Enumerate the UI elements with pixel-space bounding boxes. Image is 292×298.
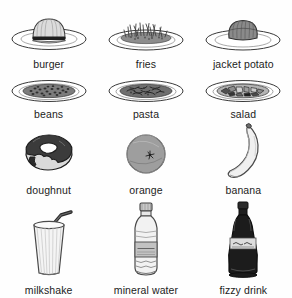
banana-icon: [197, 120, 289, 182]
doughnut-icon: [3, 124, 95, 182]
mineral-water-artwork: [97, 198, 194, 282]
fries-on-plate-icon: [100, 6, 192, 56]
pasta-artwork: [97, 72, 194, 106]
vocabulary-cell-beans[interactable]: beans: [0, 72, 97, 122]
cola-bottle-icon: [197, 198, 289, 282]
vocabulary-cell-pasta[interactable]: pasta: [97, 72, 194, 122]
item-label: pasta: [133, 106, 159, 121]
doughnut-artwork: [0, 122, 97, 182]
item-label: milkshake: [25, 282, 73, 297]
vocabulary-cell-orange[interactable]: orange: [97, 122, 194, 198]
fries-artwork: [97, 0, 194, 56]
fizzy-drink-artwork: [195, 198, 292, 282]
item-label: fizzy drink: [219, 282, 267, 297]
water-bottle-icon: [100, 198, 192, 282]
item-label: beans: [34, 106, 63, 121]
item-label: doughnut: [26, 182, 71, 197]
banana-artwork: [195, 122, 292, 182]
vocabulary-cell-doughnut[interactable]: doughnut: [0, 122, 97, 198]
burger-on-plate-icon: [3, 6, 95, 56]
vocabulary-cell-milkshake[interactable]: milkshake: [0, 198, 97, 298]
pasta-on-plate-icon: [100, 76, 192, 106]
milkshake-glass-icon: [3, 202, 95, 282]
vocabulary-cell-fries[interactable]: fries: [97, 0, 194, 72]
item-label: banana: [226, 182, 262, 197]
salad-on-plate-icon: [197, 76, 289, 106]
orange-fruit-icon: [100, 124, 192, 182]
milkshake-artwork: [0, 198, 97, 282]
item-label: jacket potato: [213, 56, 274, 71]
vocabulary-cell-burger[interactable]: burger: [0, 0, 97, 72]
vocabulary-cell-mineral-water[interactable]: mineral water: [97, 198, 194, 298]
salad-artwork: [195, 72, 292, 106]
vocabulary-cell-fizzy-drink[interactable]: fizzy drink: [195, 198, 292, 298]
beans-on-plate-icon: [3, 76, 95, 106]
jacket-potato-artwork: [195, 0, 292, 56]
beans-artwork: [0, 72, 97, 106]
vocabulary-cell-jacket-potato[interactable]: jacket potato: [195, 0, 292, 72]
vocabulary-cell-salad[interactable]: salad: [195, 72, 292, 122]
burger-artwork: [0, 0, 97, 56]
item-label: mineral water: [114, 282, 178, 297]
picture-vocabulary-sheet: burger: [0, 0, 292, 298]
item-label: burger: [33, 56, 64, 71]
item-label: orange: [129, 182, 162, 197]
item-label: salad: [231, 106, 257, 121]
item-label: fries: [136, 56, 156, 71]
orange-artwork: [97, 122, 194, 182]
vocabulary-cell-banana[interactable]: banana: [195, 122, 292, 198]
jacket-potato-on-plate-icon: [197, 6, 289, 56]
